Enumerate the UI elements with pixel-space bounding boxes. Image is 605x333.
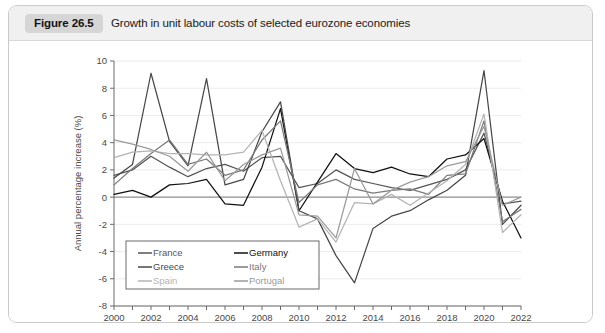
- figure-number-badge: Figure 26.5: [25, 14, 103, 33]
- figure-title: Growth in unit labour costs of selected …: [111, 15, 410, 32]
- x-axis-tick-label: 2012: [325, 312, 346, 323]
- legend-label: Greece: [153, 261, 184, 272]
- legend-label: France: [153, 247, 183, 258]
- figure-card: Figure 26.5 Growth in unit labour costs …: [8, 5, 593, 323]
- chart-legend[interactable]: FranceGermanyGreeceItalySpainPortugal: [126, 241, 319, 289]
- x-axis-tick-label: 2010: [288, 312, 309, 323]
- chart-y-axis-title: Annual percentage increase (%): [72, 116, 83, 252]
- x-axis-tick-label: 2014: [362, 312, 383, 323]
- x-axis-tick-label: 2000: [103, 312, 124, 323]
- series-line-spain: [114, 114, 521, 242]
- y-axis-tick-label: -4: [99, 246, 107, 257]
- figure-header: Figure 26.5 Growth in unit labour costs …: [9, 6, 592, 41]
- x-axis-tick-label: 2004: [177, 312, 198, 323]
- series-line-italy: [114, 121, 521, 222]
- chart-x-axis: 2000200220042006200820102012201420162018…: [103, 306, 531, 323]
- y-axis-tick-label: 0: [102, 192, 107, 203]
- x-axis-tick-label: 2006: [214, 312, 235, 323]
- y-axis-tick-label: 4: [102, 137, 107, 148]
- x-axis-tick-label: 2018: [436, 312, 457, 323]
- y-axis-tick-label: 2: [102, 164, 107, 175]
- legend-label: Germany: [249, 247, 288, 258]
- legend-label: Spain: [153, 275, 177, 286]
- legend-label: Portugal: [249, 275, 284, 286]
- y-axis-tick-label: 8: [102, 83, 107, 94]
- chart-plot-area: -8-6-4-20246810 200020022004200620082010…: [9, 41, 593, 323]
- chart-y-axis: -8-6-4-20246810: [96, 55, 114, 311]
- x-axis-tick-label: 2008: [251, 312, 272, 323]
- x-axis-tick-label: 2020: [473, 312, 494, 323]
- x-axis-tick-label: 2002: [140, 312, 161, 323]
- x-axis-tick-label: 2022: [510, 312, 531, 323]
- y-axis-label-text: Annual percentage increase (%): [72, 116, 83, 252]
- y-axis-tick-label: 6: [102, 110, 107, 121]
- y-axis-tick-label: -8: [99, 300, 107, 311]
- y-axis-tick-label: 10: [96, 55, 107, 66]
- y-axis-tick-label: -6: [99, 273, 107, 284]
- x-axis-tick-label: 2016: [399, 312, 420, 323]
- line-chart: -8-6-4-20246810 200020022004200620082010…: [9, 41, 593, 323]
- y-axis-tick-label: -2: [99, 219, 107, 230]
- legend-label: Italy: [249, 261, 267, 272]
